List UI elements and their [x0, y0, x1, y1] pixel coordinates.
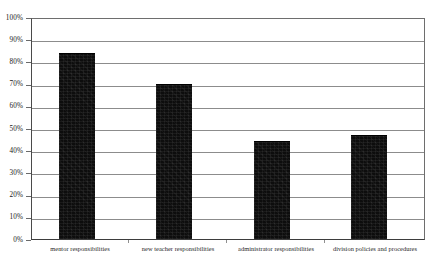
bar-mentor-responsibilities: [59, 53, 95, 240]
x-axis-label-administrator-responsibilities: administrator responsibilities: [227, 246, 325, 253]
x-axis-separator: [226, 240, 227, 243]
plot-area: [31, 18, 425, 240]
y-axis-tick-mark: [26, 240, 31, 241]
x-axis-separator: [324, 240, 325, 243]
y-axis-tick-label: 90%: [0, 37, 23, 44]
y-axis-tick-label: 20%: [0, 192, 23, 199]
x-axis-label-mentor-responsibilities: mentor responsibilities: [31, 246, 129, 253]
y-axis-tick-label: 60%: [0, 103, 23, 110]
y-axis-tick-label: 70%: [0, 81, 23, 88]
y-axis-tick-label: 50%: [0, 126, 23, 133]
y-axis-tick-label: 0%: [0, 237, 23, 244]
bar-administrator-responsibilities: [254, 141, 290, 239]
y-axis-tick-label: 10%: [0, 214, 23, 221]
x-axis-label-division-policies-and-procedures: division policies and procedures: [325, 246, 425, 253]
bar-new-teacher-responsibilities: [156, 84, 192, 239]
bar-division-policies-and-procedures: [351, 135, 387, 239]
y-axis-tick-label: 40%: [0, 148, 23, 155]
x-axis-separator: [128, 240, 129, 243]
y-axis-tick-label: 80%: [0, 59, 23, 66]
y-axis-tick-label: 30%: [0, 170, 23, 177]
x-axis-label-new-teacher-responsibilities: new teacher responsibilities: [129, 246, 227, 253]
bar-chart: 100% 90% 80% 70% 60% 50% 40% 30% 20% 10%…: [0, 0, 442, 262]
gridline-90: [32, 41, 424, 42]
y-axis-tick-label: 100%: [0, 15, 23, 22]
